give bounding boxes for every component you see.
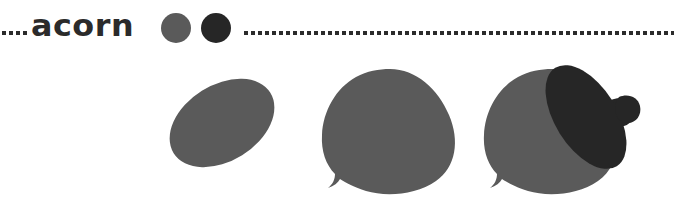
rule-dot bbox=[496, 31, 500, 35]
rule-dot bbox=[538, 31, 542, 35]
rule-dot bbox=[447, 31, 451, 35]
rule-dot bbox=[559, 31, 563, 35]
color-swatch-body bbox=[161, 13, 191, 43]
rule-dot bbox=[636, 31, 640, 35]
rule-dot bbox=[16, 31, 20, 35]
rule-dot bbox=[363, 31, 367, 35]
rule-dot bbox=[405, 31, 409, 35]
step-1-tilted-oval bbox=[150, 55, 320, 199]
rule-dot bbox=[272, 31, 276, 35]
rule-dot bbox=[307, 31, 311, 35]
rule-dot bbox=[293, 31, 297, 35]
rule-dot bbox=[524, 31, 528, 35]
rule-dot bbox=[643, 31, 647, 35]
rule-dot bbox=[349, 31, 353, 35]
rule-dot bbox=[454, 31, 458, 35]
rule-dot bbox=[412, 31, 416, 35]
rule-dot bbox=[300, 31, 304, 35]
rule-dot bbox=[615, 31, 619, 35]
rule-dot bbox=[356, 31, 360, 35]
oval-shape bbox=[154, 61, 291, 186]
rule-dot bbox=[657, 31, 661, 35]
rule-dot bbox=[573, 31, 577, 35]
nut-body-shape bbox=[322, 69, 455, 194]
rule-dot bbox=[608, 31, 612, 35]
rule-dot bbox=[622, 31, 626, 35]
rule-dot bbox=[475, 31, 479, 35]
rule-dot bbox=[664, 31, 668, 35]
rule-dot bbox=[279, 31, 283, 35]
rule-dot bbox=[314, 31, 318, 35]
rule-dot bbox=[503, 31, 507, 35]
rule-dot bbox=[286, 31, 290, 35]
rule-dot bbox=[531, 31, 535, 35]
rule-dot bbox=[517, 31, 521, 35]
rule-dot bbox=[419, 31, 423, 35]
rule-dot bbox=[251, 31, 255, 35]
rule-dot bbox=[335, 31, 339, 35]
rule-dot bbox=[2, 31, 6, 35]
rule-dot bbox=[265, 31, 269, 35]
acorn-stem-tip bbox=[615, 95, 640, 123]
rule-dot bbox=[391, 31, 395, 35]
rule-dot bbox=[9, 31, 13, 35]
rule-dot bbox=[482, 31, 486, 35]
rule-dot bbox=[258, 31, 262, 35]
rule-dot bbox=[489, 31, 493, 35]
rule-dot bbox=[321, 31, 325, 35]
rule-dot bbox=[594, 31, 598, 35]
rule-dot bbox=[601, 31, 605, 35]
rule-dot bbox=[440, 31, 444, 35]
page-title: acorn bbox=[31, 9, 134, 43]
rule-dot bbox=[244, 31, 248, 35]
rule-dot bbox=[650, 31, 654, 35]
acorn-drawing-tutorial: acorn bbox=[0, 0, 674, 199]
rule-dot bbox=[552, 31, 556, 35]
rule-dot bbox=[510, 31, 514, 35]
rule-dot bbox=[461, 31, 465, 35]
rule-dot bbox=[398, 31, 402, 35]
dotted-rule-left bbox=[2, 31, 30, 35]
rule-dot bbox=[433, 31, 437, 35]
step-3-complete-acorn bbox=[480, 55, 650, 199]
header-band: acorn bbox=[0, 0, 674, 55]
rule-dot bbox=[328, 31, 332, 35]
rule-dot bbox=[629, 31, 633, 35]
rule-dot bbox=[468, 31, 472, 35]
step-2-nut-body bbox=[310, 55, 480, 199]
rule-dot bbox=[370, 31, 374, 35]
rule-dot bbox=[580, 31, 584, 35]
color-swatch-cap bbox=[201, 13, 231, 43]
dotted-rule-right bbox=[244, 31, 674, 35]
rule-dot bbox=[566, 31, 570, 35]
rule-dot bbox=[384, 31, 388, 35]
rule-dot bbox=[342, 31, 346, 35]
rule-dot bbox=[545, 31, 549, 35]
rule-dot bbox=[377, 31, 381, 35]
rule-dot bbox=[587, 31, 591, 35]
rule-dot bbox=[23, 31, 27, 35]
rule-dot bbox=[426, 31, 430, 35]
